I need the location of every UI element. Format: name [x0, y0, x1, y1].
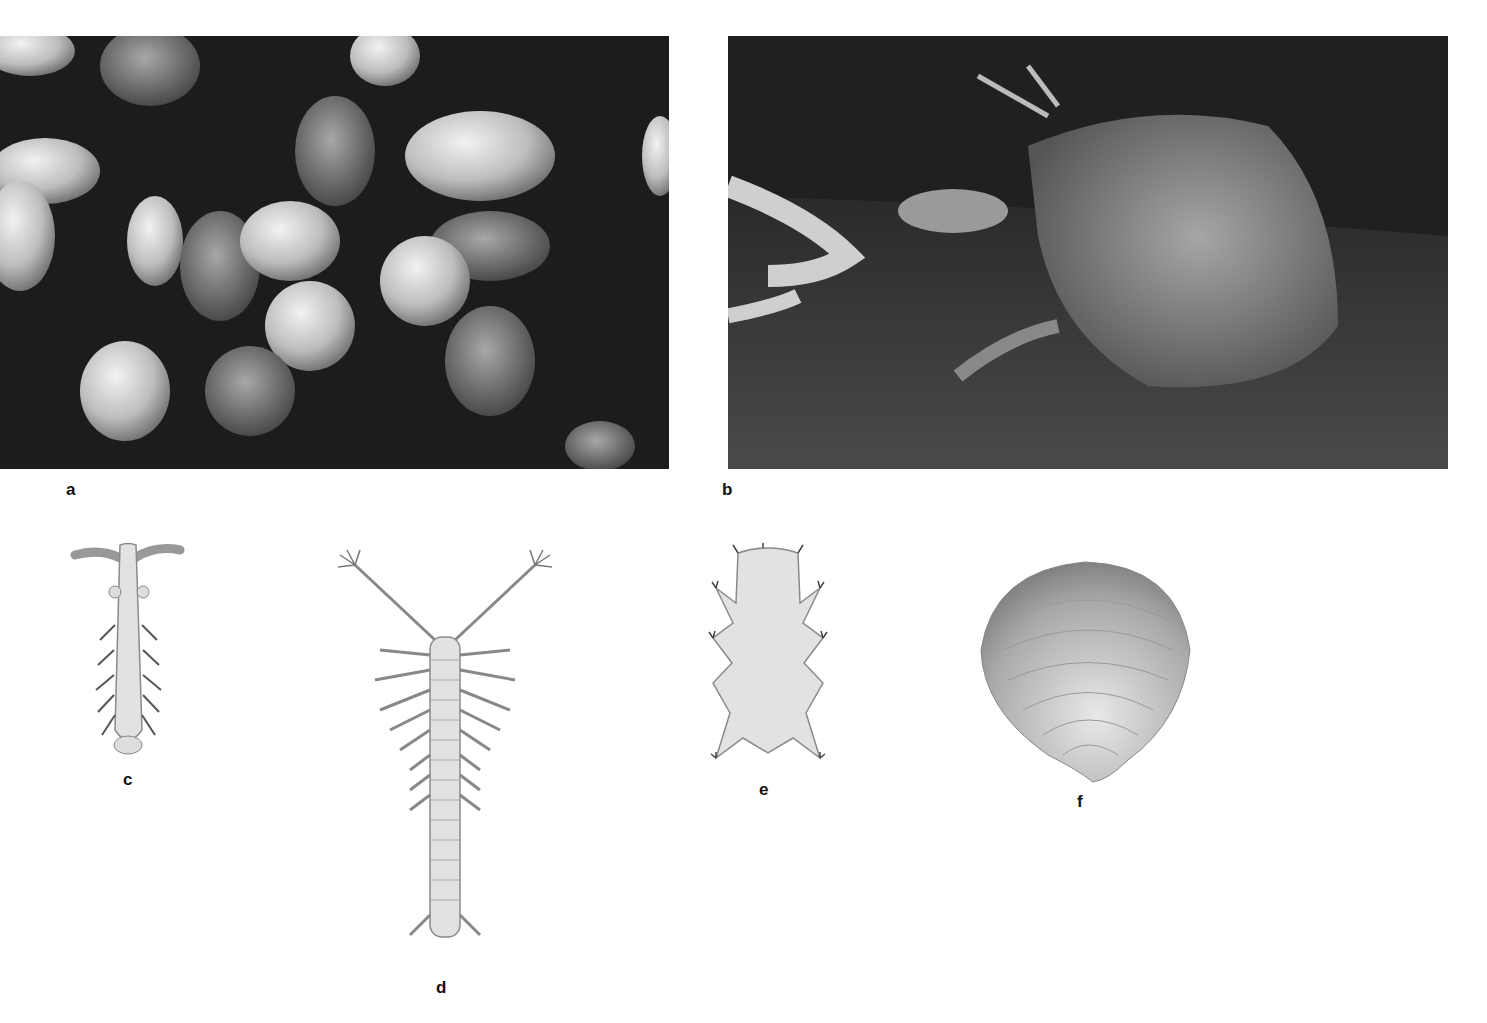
segmented-animal-illustration-d	[335, 545, 555, 955]
panel-label-d: d	[436, 978, 446, 998]
shell-illustration-f	[978, 560, 1193, 785]
panel-label-c: c	[123, 770, 132, 790]
panel-label-e: e	[759, 780, 768, 800]
illustration-panel-d	[335, 545, 555, 955]
worm-illustration-c	[70, 540, 185, 765]
panel-label-b: b	[722, 480, 732, 500]
illustration-panel-f	[978, 560, 1193, 785]
tardigrade-illustration-e	[708, 543, 828, 768]
clam-shells-image	[0, 36, 669, 469]
mole-crab-image	[728, 36, 1448, 469]
photo-panel-a	[0, 36, 669, 469]
photo-panel-b	[728, 36, 1448, 469]
panel-label-a: a	[66, 480, 75, 500]
panel-label-f: f	[1077, 792, 1083, 812]
illustration-panel-e	[708, 543, 828, 768]
illustration-panel-c	[70, 540, 185, 765]
